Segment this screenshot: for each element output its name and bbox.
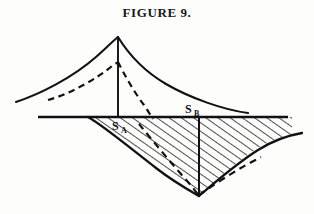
upper-solid-curve-left	[16, 37, 118, 102]
label-s-a-base: S	[112, 119, 119, 133]
label-s-b-subscript: B	[194, 109, 200, 118]
label-s-b: S B	[185, 102, 200, 118]
label-s-a-subscript: A	[121, 126, 127, 135]
label-s-b-base: S	[185, 102, 192, 116]
figure-page: FIGURE 9.	[0, 0, 314, 214]
figure-drawing: S A S B	[0, 0, 314, 214]
upper-solid-curve-right	[118, 37, 248, 113]
